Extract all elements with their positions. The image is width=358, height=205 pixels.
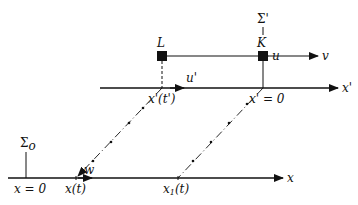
relativity-frames-diagram: x' x Σo x = 0 L u Σ' K v u' <box>0 0 358 205</box>
w-label: w <box>84 163 95 177</box>
u-prime-label: u' <box>186 71 197 85</box>
moving-frame-label: Σ' <box>257 12 269 26</box>
rest-frame-label: Σo <box>20 136 36 153</box>
x-t-label: x(t) <box>65 182 86 196</box>
L-square-icon <box>157 51 167 61</box>
rest-frame-marker: Σo x = 0 <box>14 136 46 196</box>
K-label: K <box>256 36 267 50</box>
upper-axis: x' <box>100 81 352 95</box>
x1-t-label: x1(t) <box>163 182 189 197</box>
w-arrow: w <box>78 163 95 178</box>
L-label: L <box>156 36 165 50</box>
x-prime-t-prime-label: x'(t') <box>148 92 176 106</box>
upper-axis-label: x' <box>342 81 352 95</box>
object-K: Σ' K v <box>256 12 329 88</box>
origin-x-label: x = 0 <box>14 182 46 196</box>
x-prime-origin-label: x' = 0 <box>249 92 285 106</box>
v-label: v <box>322 49 329 63</box>
u-prime-arrow: u' <box>170 71 197 88</box>
lower-axis: x <box>8 171 294 185</box>
K-square-icon <box>258 51 268 61</box>
lower-axis-label: x <box>287 171 294 185</box>
